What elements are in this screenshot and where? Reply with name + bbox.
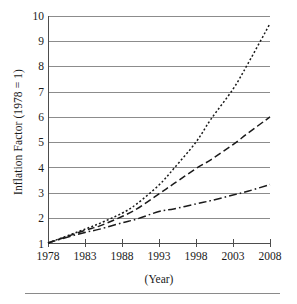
data-series-group: [48, 24, 270, 243]
data-line-series-1: [48, 24, 270, 243]
x-axis-title: (Year): [48, 272, 270, 286]
inflation-factor-chart: Inflation Factor (1978 = 1) 10 9 8 7 6 5…: [0, 0, 297, 304]
plot-area: [0, 0, 297, 304]
gridlines: [48, 17, 270, 244]
data-line-series-2: [48, 117, 270, 243]
footer-divider: [25, 293, 280, 294]
